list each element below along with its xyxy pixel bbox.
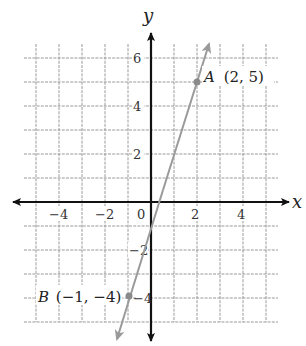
x-tick-label: 4 [237, 207, 245, 222]
y-tick-label: 2 [133, 147, 141, 162]
x-tick-labels: −4 −2 0 2 4 [48, 206, 248, 222]
line-ab [163, 44, 209, 190]
x-tick-label: −2 [95, 207, 114, 222]
point-b [126, 293, 133, 300]
x-tick-label: 0 [137, 207, 145, 222]
point-a-coords: (2, 5) [224, 68, 264, 86]
point-b-coords: (−1, −4) [56, 288, 121, 306]
x-tick-label: 2 [191, 207, 199, 222]
point-a-label: A (2, 5) [202, 68, 264, 86]
y-tick-label: 4 [133, 99, 141, 114]
point-a-name: A [202, 68, 215, 86]
y-axis-label: y [142, 5, 154, 26]
point-a [194, 79, 201, 86]
point-b-name: B [37, 288, 49, 306]
y-tick-label: 6 [133, 51, 141, 66]
coordinate-plane: x y −4 −2 0 2 4 6 4 2 −2 −4 A (2, 5) [0, 0, 306, 346]
x-tick-label: −4 [49, 207, 68, 222]
point-b-label: B (−1, −4) [37, 288, 121, 306]
x-axis-label: x [292, 191, 302, 212]
y-tick-label: −4 [133, 291, 152, 306]
